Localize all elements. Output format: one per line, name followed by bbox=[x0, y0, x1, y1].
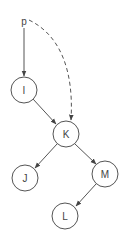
node-m: M bbox=[92, 161, 118, 187]
node-i: I bbox=[11, 77, 37, 103]
node-m-label: M bbox=[101, 169, 109, 180]
node-l-label: L bbox=[62, 211, 68, 222]
node-i-label: I bbox=[23, 85, 26, 96]
edge-k-to-m bbox=[75, 144, 96, 164]
edge-p-to-k-dashed bbox=[29, 20, 71, 120]
node-l: L bbox=[52, 203, 78, 229]
tree-diagram: p I K J M L bbox=[0, 0, 127, 242]
edge-k-to-j bbox=[35, 144, 57, 168]
node-k: K bbox=[53, 121, 79, 147]
edge-m-to-l bbox=[76, 184, 96, 206]
edge-i-to-k bbox=[33, 99, 56, 124]
node-j-label: J bbox=[23, 173, 28, 184]
node-k-label: K bbox=[63, 129, 70, 140]
node-j: J bbox=[12, 165, 38, 191]
pointer-label-p: p bbox=[21, 16, 27, 27]
